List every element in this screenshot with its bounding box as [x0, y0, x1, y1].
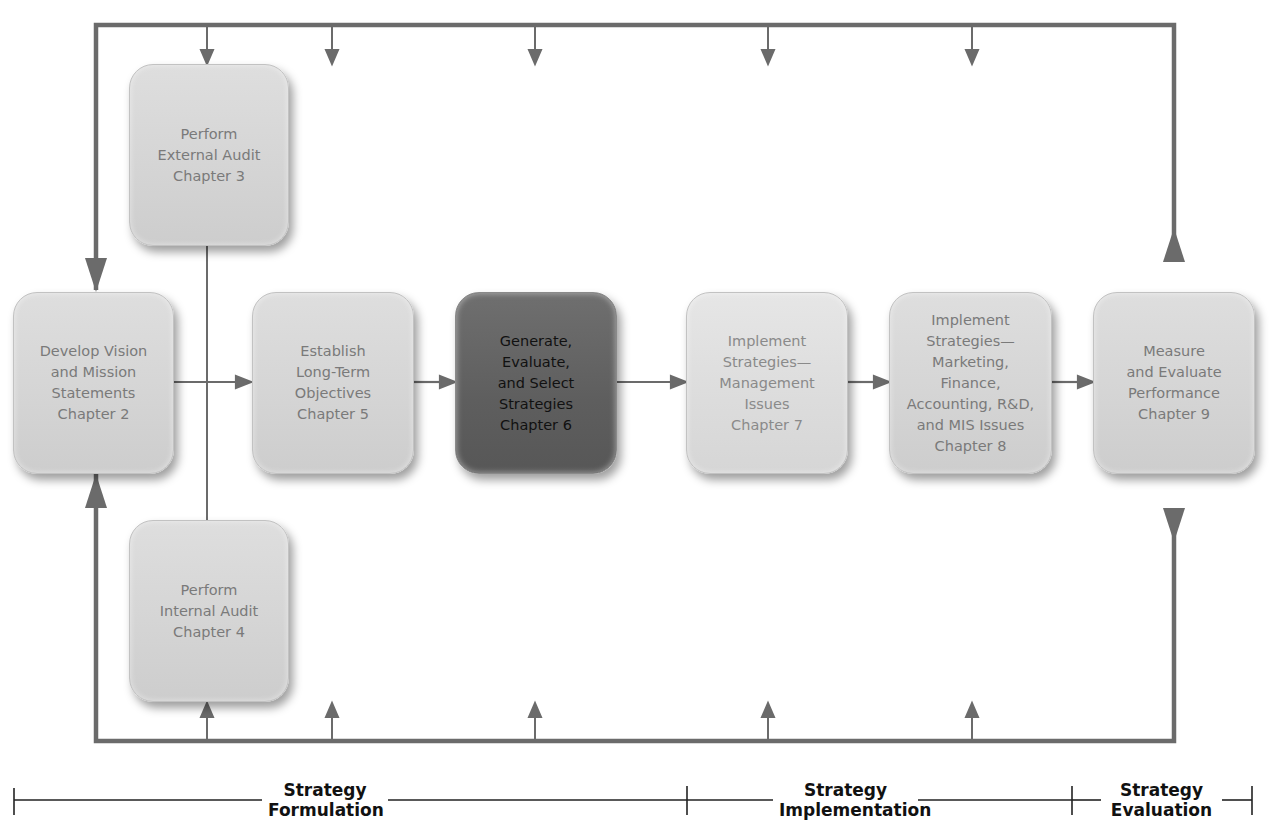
phase-line1: Strategy	[779, 780, 912, 800]
box-internal-audit[interactable]: Perform Internal Audit Chapter 4	[129, 520, 289, 702]
phase-timeline	[14, 786, 1252, 815]
arrow-down-from-evaluation	[1163, 508, 1185, 542]
box-implement-management-issues[interactable]: Implement Strategies— Management Issues …	[686, 292, 848, 474]
box-implement-functional-issues[interactable]: Implement Strategies— Marketing, Finance…	[889, 292, 1052, 474]
box-external-audit[interactable]: Perform External Audit Chapter 3	[129, 64, 289, 246]
box-label: Perform External Audit Chapter 3	[158, 124, 261, 187]
box-long-term-objectives[interactable]: Establish Long-Term Objectives Chapter 5	[252, 292, 414, 474]
box-measure-evaluate-performance[interactable]: Measure and Evaluate Performance Chapter…	[1093, 292, 1255, 474]
top-feedback-arrows	[201, 27, 978, 64]
phase-line1: Strategy	[268, 780, 382, 800]
phase-line2: Formulation	[268, 800, 382, 820]
bottom-feedback-arrows	[201, 703, 978, 739]
phase-label-evaluation: Strategy Evaluation	[1101, 780, 1222, 820]
box-label: Measure and Evaluate Performance Chapter…	[1126, 341, 1221, 425]
phase-label-implementation: Strategy Implementation	[773, 780, 918, 820]
box-label: Implement Strategies— Management Issues …	[719, 331, 815, 436]
box-label: Implement Strategies— Marketing, Finance…	[907, 310, 1034, 457]
arrow-up-to-vision	[85, 474, 107, 508]
box-label: Generate, Evaluate, and Select Strategie…	[498, 331, 575, 436]
box-generate-evaluate-select-strategies[interactable]: Generate, Evaluate, and Select Strategie…	[455, 292, 617, 474]
arrow-down-to-vision	[85, 258, 107, 292]
box-develop-vision-mission[interactable]: Develop Vision and Mission Statements Ch…	[13, 292, 174, 474]
phase-line2: Evaluation	[1107, 800, 1216, 820]
box-label: Develop Vision and Mission Statements Ch…	[40, 341, 148, 425]
phase-line1: Strategy	[1107, 780, 1216, 800]
phase-line2: Implementation	[779, 800, 912, 820]
arrow-up-from-evaluation	[1163, 228, 1185, 262]
box-label: Establish Long-Term Objectives Chapter 5	[295, 341, 371, 425]
box-label: Perform Internal Audit Chapter 4	[160, 580, 259, 643]
phase-label-formulation: Strategy Formulation	[262, 780, 388, 820]
